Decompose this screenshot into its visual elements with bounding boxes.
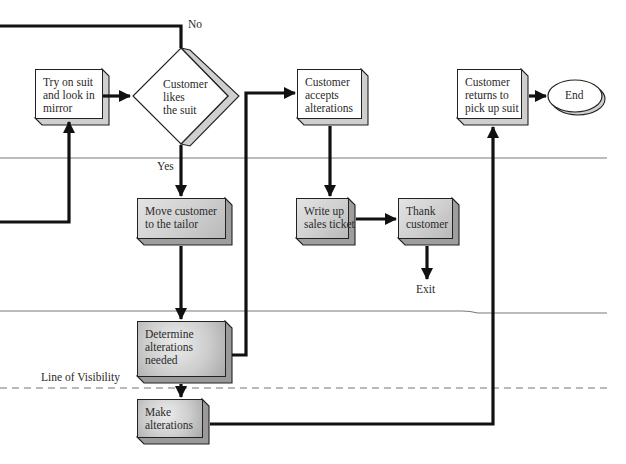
node-customer-accepts-alterations: Customer accepts alterations xyxy=(297,69,362,119)
node-make-alterations: Make alterations xyxy=(137,399,203,438)
node-customer-returns: Customer returns to pick up suit xyxy=(457,69,522,119)
node-determine-alterations: Determine alterations needed xyxy=(137,321,226,377)
no-label: No xyxy=(188,18,202,31)
node-customer-likes-suit: Customer likes the suit xyxy=(163,78,208,117)
node-end: End xyxy=(565,89,584,101)
line-of-visibility-label: Line of Visibility xyxy=(41,371,120,384)
node-move-customer: Move customer to the tailor xyxy=(137,198,226,239)
node-thank-customer: Thank customer xyxy=(398,198,453,239)
line-of-internal-interaction xyxy=(0,311,607,313)
node-write-sales-ticket: Write up sales ticket xyxy=(296,198,349,239)
exit-label: Exit xyxy=(416,283,435,296)
yes-label: Yes xyxy=(157,160,174,173)
node-try-on-suit: Try on suit and look in mirror xyxy=(35,69,103,119)
